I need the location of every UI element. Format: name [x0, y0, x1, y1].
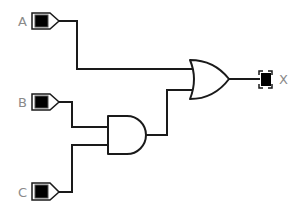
output-label-x: X: [279, 72, 288, 87]
input-pin-a[interactable]: [32, 13, 59, 29]
input-pin-b[interactable]: [32, 94, 59, 110]
wire-a-to-or: [60, 21, 194, 69]
logic-circuit-diagram: A B C X: [0, 0, 306, 217]
and-gate: [108, 116, 146, 154]
wire-c-to-and: [60, 145, 110, 192]
or-gate: [190, 60, 229, 99]
wire-and-to-or: [147, 90, 194, 135]
input-label-b: B: [18, 95, 27, 110]
wire-b-to-and: [60, 102, 110, 127]
input-label-c: C: [18, 185, 27, 200]
input-pin-c[interactable]: [32, 183, 59, 200]
input-label-a: A: [18, 14, 27, 29]
output-pin-x[interactable]: [259, 71, 272, 88]
